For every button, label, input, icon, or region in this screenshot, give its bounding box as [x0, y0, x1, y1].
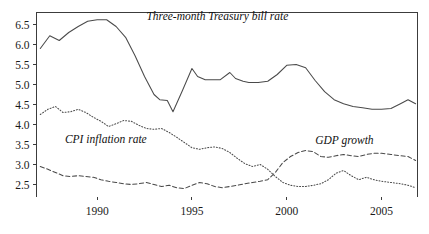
series-annotation-label: CPI inflation rate: [65, 133, 147, 146]
x-tick-label: 1995: [180, 205, 203, 217]
x-tick-label: 1990: [86, 205, 109, 217]
y-tick-label: 4.5: [15, 99, 30, 111]
y-tick-label: 5.5: [15, 59, 30, 71]
data-series-group: [40, 20, 415, 189]
series-labels-group: Three-month Treasury bill rateCPI inflat…: [65, 10, 374, 147]
series-dashed-line: [40, 151, 415, 189]
series-solid-line: [40, 20, 415, 112]
y-tick-label: 6.0: [15, 39, 30, 51]
x-tick-label: 2005: [370, 205, 393, 217]
y-tick-label: 5.0: [15, 79, 30, 91]
y-axis-ticks: 2.53.03.54.04.55.05.56.06.5: [15, 19, 36, 191]
chart-figure: 2.53.03.54.04.55.05.56.06.5 199019952000…: [0, 0, 429, 234]
y-tick-label: 3.5: [15, 139, 30, 151]
axis-frame: [37, 13, 418, 197]
x-axis-ticks: 1990199520002005: [86, 197, 394, 217]
y-tick-label: 2.5: [15, 179, 30, 191]
series-annotation-label: Three-month Treasury bill rate: [146, 10, 288, 23]
y-tick-label: 6.5: [15, 19, 30, 31]
x-tick-label: 2000: [275, 205, 298, 217]
series-annotation-label: GDP growth: [315, 134, 374, 147]
y-tick-label: 3.0: [15, 159, 30, 171]
series-dotted-line: [40, 107, 415, 188]
plot-frame: [37, 13, 418, 197]
y-tick-label: 4.0: [15, 119, 30, 131]
line-chart: 2.53.03.54.04.55.05.56.06.5 199019952000…: [0, 0, 429, 234]
